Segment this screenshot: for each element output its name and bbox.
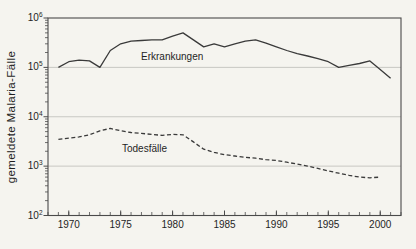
x-tick-label: 2000 xyxy=(369,219,392,230)
y-tick-label: 106 xyxy=(28,11,43,23)
x-tick-label: 1985 xyxy=(213,219,236,230)
x-tick-label: 1975 xyxy=(110,219,133,230)
x-tick-label: 1995 xyxy=(317,219,340,230)
chart-canvas: 1021031041051061970197519801985199019952… xyxy=(0,0,416,249)
x-tick-label: 1990 xyxy=(265,219,288,230)
series-label-todesfaelle: Todesfälle xyxy=(122,143,167,154)
series-line-erkrankungen xyxy=(58,33,390,78)
y-tick-label: 105 xyxy=(28,60,43,72)
y-tick-label: 103 xyxy=(28,159,43,171)
y-axis-title: gemeldete Malaria-Fälle xyxy=(5,51,17,184)
x-tick-label: 1970 xyxy=(58,219,81,230)
malaria-log-line-chart: 1021031041051061970197519801985199019952… xyxy=(0,0,416,249)
y-tick-label: 102 xyxy=(28,209,43,221)
series-label-erkrankungen: Erkrankungen xyxy=(141,51,203,62)
series-line-todesfaelle xyxy=(58,128,380,177)
x-tick-label: 1980 xyxy=(161,219,184,230)
y-tick-label: 104 xyxy=(28,110,43,122)
